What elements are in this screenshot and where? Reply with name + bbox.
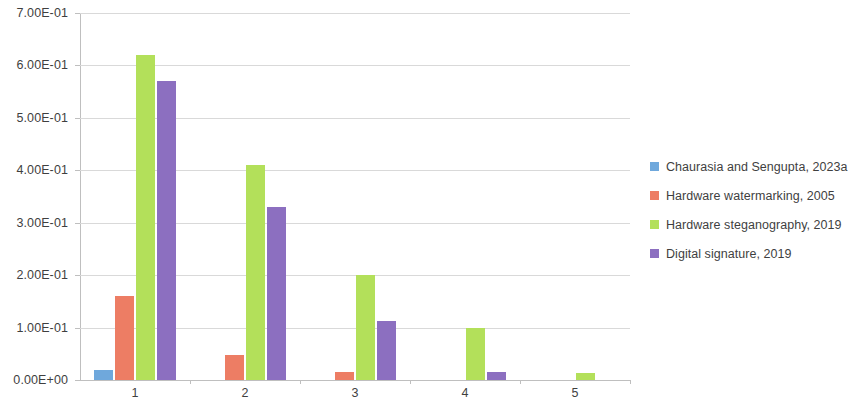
bar-group (410, 13, 520, 380)
bar-chart: 0.00E+001.00E-012.00E-013.00E-014.00E-01… (0, 0, 852, 408)
bar-group (80, 13, 190, 380)
x-tick-mark (300, 380, 301, 384)
x-tick-label: 4 (462, 386, 469, 400)
x-tick-mark (410, 380, 411, 384)
bar (246, 165, 265, 380)
x-tick-label: 2 (242, 386, 249, 400)
bar (157, 81, 176, 380)
bar (267, 207, 286, 380)
legend-item[interactable]: Hardware steganography, 2019 (650, 210, 852, 239)
y-tick-label: 3.00E-01 (16, 216, 68, 230)
bar (115, 296, 134, 380)
bar-groups (80, 13, 630, 380)
legend-swatch-icon (650, 220, 659, 229)
plot-area (80, 13, 630, 380)
x-tick-label: 5 (572, 386, 579, 400)
y-tick-label: 6.00E-01 (16, 58, 68, 72)
y-tick-label: 2.00E-01 (16, 268, 68, 282)
bar-group (520, 13, 630, 380)
y-tick-label: 1.00E-01 (16, 321, 68, 335)
legend-swatch-icon (650, 191, 659, 200)
legend-label: Digital signature, 2019 (666, 247, 792, 261)
y-tick-label: 0.00E+00 (13, 373, 68, 387)
bar-group (190, 13, 300, 380)
y-tick-label: 4.00E-01 (16, 163, 68, 177)
bar (225, 355, 244, 380)
bar (576, 373, 595, 380)
x-tick-label: 1 (132, 386, 139, 400)
bar (356, 275, 375, 380)
legend-item[interactable]: Hardware watermarking, 2005 (650, 181, 852, 210)
y-tick-mark (75, 380, 80, 381)
x-tick-mark (520, 380, 521, 384)
bar (136, 55, 155, 380)
y-tick-label: 7.00E-01 (16, 6, 68, 20)
legend-swatch-icon (650, 249, 659, 258)
legend-item[interactable]: Chaurasia and Sengupta, 2023a (650, 152, 852, 181)
y-tick-label: 5.00E-01 (16, 111, 68, 125)
x-tick-mark (190, 380, 191, 384)
legend-label: Hardware steganography, 2019 (666, 218, 842, 232)
legend-swatch-icon (650, 162, 659, 171)
legend-label: Chaurasia and Sengupta, 2023a (666, 160, 847, 174)
y-axis: 0.00E+001.00E-012.00E-013.00E-014.00E-01… (0, 0, 74, 408)
bar (487, 372, 506, 380)
bar (466, 328, 485, 380)
chart-legend: Chaurasia and Sengupta, 2023aHardware wa… (650, 152, 852, 268)
legend-label: Hardware watermarking, 2005 (666, 189, 835, 203)
legend-item[interactable]: Digital signature, 2019 (650, 239, 852, 268)
bar (377, 321, 396, 380)
bar-group (300, 13, 410, 380)
bar (335, 372, 354, 380)
x-tick-label: 3 (352, 386, 359, 400)
x-tick-mark (630, 380, 631, 384)
x-axis: 12345 (80, 386, 630, 408)
axis-baseline (80, 380, 630, 381)
bar (94, 370, 113, 380)
